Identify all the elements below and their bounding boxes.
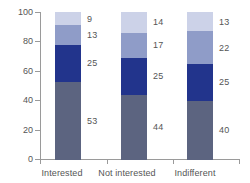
bar-interested-segment-3-label: 13 [87,30,97,39]
x-category-label-not-interested: Not interested [91,168,163,178]
bar-indifferent-segment-4-label: 13 [219,17,229,26]
bar-not-interested-segment-4-label: 14 [153,18,163,27]
bar-indifferent-segment-3[interactable]: 22 [187,31,213,64]
bar-interested-segment-2[interactable]: 25 [55,45,81,82]
bar-interested-segment-2-label: 25 [87,59,97,68]
x-category-label-interested: Interested [28,168,96,178]
bar-indifferent[interactable]: 13 22 25 40 [187,12,213,160]
y-tick-label-80: 80 [0,37,33,46]
bar-not-interested-segment-1-label: 44 [153,123,163,132]
bar-interested-segment-3[interactable]: 13 [55,25,81,44]
bar-not-interested-segment-4[interactable]: 14 [121,12,147,33]
y-tick-label-20: 20 [0,126,33,135]
y-tick-label-40: 40 [0,96,33,105]
bar-not-interested-segment-1[interactable]: 44 [121,95,147,160]
bar-interested-segment-4-label: 9 [87,14,92,23]
x-category-label-indifferent: Indifferent [160,168,230,178]
bar-not-interested[interactable]: 14 17 25 44 [121,12,147,160]
bar-indifferent-segment-4[interactable]: 13 [187,12,213,31]
y-tick-label-100: 100 [0,8,33,17]
bar-not-interested-segment-3-label: 17 [153,41,163,50]
bar-interested-segment-1[interactable]: 53 [55,82,81,160]
plot-area: 9 13 25 53 14 17 25 44 [40,12,240,160]
bar-not-interested-segment-2[interactable]: 25 [121,58,147,95]
bar-interested-segment-1-label: 53 [87,116,97,125]
x-tick-0 [40,160,41,164]
y-tick-label-0: 0 [0,155,33,164]
bar-interested-segment-4[interactable]: 9 [55,12,81,25]
bar-indifferent-segment-1[interactable]: 40 [187,101,213,160]
bar-not-interested-segment-2-label: 25 [153,72,163,81]
x-tick-3 [239,160,240,164]
stacked-bar-chart: 100 80 60 40 20 0 9 13 25 53 [0,0,250,183]
bar-indifferent-segment-3-label: 22 [219,43,229,52]
bar-not-interested-segment-3[interactable]: 17 [121,33,147,58]
y-tick-label-60: 60 [0,67,33,76]
x-tick-2 [173,160,174,164]
bar-interested[interactable]: 9 13 25 53 [55,12,81,160]
bar-indifferent-segment-1-label: 40 [219,126,229,135]
bar-indifferent-segment-2-label: 25 [219,78,229,87]
x-tick-1 [107,160,108,164]
bar-indifferent-segment-2[interactable]: 25 [187,64,213,101]
